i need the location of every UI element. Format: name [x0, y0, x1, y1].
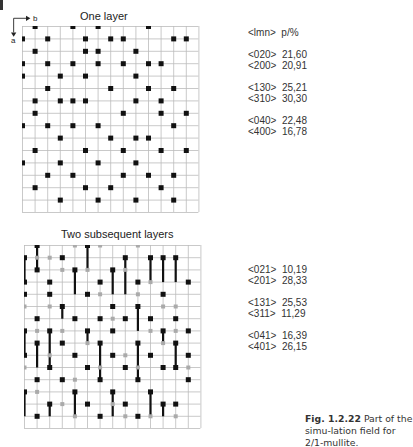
table-row: <130> 25,21 [248, 82, 307, 93]
atom-dot [121, 148, 126, 153]
atom-dot [45, 61, 50, 66]
atom-dot [173, 316, 178, 321]
atom-dot [136, 245, 140, 248]
atom-dot [58, 136, 63, 141]
atom-dot [22, 61, 25, 66]
atom-dot [111, 402, 115, 406]
atom-dot [47, 365, 52, 370]
table-row: <311> 11,29 [248, 308, 307, 319]
atom-dot [98, 341, 103, 346]
atom-dot [85, 292, 90, 297]
panel2-title: Two subsequent layers [61, 228, 174, 240]
atom-dot [146, 61, 151, 66]
table-row: <021> 10,19 [248, 264, 307, 275]
atom-dot [98, 414, 103, 419]
atom-dot [123, 255, 128, 260]
table-row: <310> 30,30 [248, 93, 307, 104]
atom-dot [47, 280, 52, 285]
atom-dot [48, 305, 52, 309]
atom-dot [146, 173, 151, 178]
atom-dot [24, 280, 27, 285]
atom-dot [133, 198, 138, 203]
atom-dot [121, 36, 126, 41]
atom-dot [149, 280, 153, 284]
one-layer-grid [22, 26, 202, 216]
table-row: <400> 16,78 [248, 126, 307, 137]
atom-dot [98, 366, 102, 370]
atom-dot [24, 389, 27, 394]
atom-dot [159, 185, 164, 190]
atom-dot [173, 365, 178, 370]
atom-dot [58, 198, 63, 203]
axis-a-label: a [11, 36, 16, 43]
atom-dot [98, 280, 103, 285]
atom-dot [110, 304, 115, 309]
atom-dot [148, 353, 153, 358]
atom-dot [108, 86, 113, 91]
atom-dot [173, 255, 178, 260]
atom-dot [85, 365, 90, 370]
atom-dot [133, 49, 138, 54]
table-gap [248, 38, 307, 49]
atom-dot [146, 86, 151, 91]
atom-dot [133, 74, 138, 79]
atom-dot [83, 185, 88, 190]
atom-dot [108, 136, 113, 141]
atom-dot [24, 353, 27, 358]
table-gap [248, 71, 307, 82]
atom-dot [96, 26, 101, 29]
atom-dot [60, 402, 64, 406]
table-row: <040> 22,48 [248, 115, 307, 126]
atom-dot [174, 329, 178, 333]
atom-dot [123, 414, 127, 418]
atom-dot [174, 414, 178, 418]
atom-dot [123, 268, 127, 272]
atom-dot [73, 414, 77, 418]
atom-dot [135, 341, 140, 346]
atom-dot [35, 377, 40, 382]
atom-dot [47, 328, 52, 333]
atom-dot [22, 36, 25, 41]
atom-dot [96, 198, 101, 203]
table-row: <201> 28,33 [248, 275, 307, 286]
atom-dot [123, 353, 127, 357]
atom-dot [135, 280, 140, 285]
atom-dot [70, 98, 75, 103]
atom-dot [186, 280, 191, 285]
atom-dot [33, 185, 38, 190]
atom-dot [136, 366, 140, 370]
atom-dot [184, 111, 189, 116]
table-row: <401> 26,15 [248, 341, 307, 352]
atom-dot [35, 245, 40, 248]
atom-dot [159, 111, 164, 116]
table-row: <lmn> p/% [248, 27, 307, 38]
atom-dot [48, 353, 52, 357]
atom-dot [70, 26, 75, 29]
atom-dot [173, 341, 178, 346]
atom-dot [110, 328, 115, 333]
atom-dot [186, 328, 191, 333]
atom-dot [148, 389, 153, 394]
atom-dot [96, 61, 101, 66]
atom-dot [33, 26, 38, 29]
atom-dot [60, 255, 65, 260]
atom-dot [98, 245, 102, 248]
atom-dot [60, 268, 64, 272]
atom-dot [161, 365, 166, 370]
table-row: <200> 20,91 [248, 60, 307, 71]
atom-dot [35, 329, 39, 333]
atom-dot [98, 377, 103, 382]
table-gap [248, 286, 307, 297]
atom-dot [159, 61, 164, 66]
table-gap [248, 319, 307, 330]
atom-dot [161, 292, 166, 297]
atom-dot [133, 160, 138, 165]
atom-dot [186, 353, 191, 358]
atom-dot [83, 49, 88, 54]
atom-dot [110, 353, 115, 358]
atom-dot [45, 86, 50, 91]
atom-dot [60, 329, 64, 333]
atom-dot [146, 136, 151, 141]
atom-dot [159, 98, 164, 103]
atom-dot [171, 123, 176, 128]
